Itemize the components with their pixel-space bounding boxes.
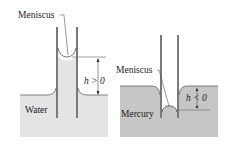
mercury-meniscus-label: Meniscus — [116, 65, 153, 75]
mercury-label: Mercury — [121, 109, 154, 119]
capillary-diagram: Meniscus h > 0 Water Meniscus h < 0 Merc… — [0, 0, 233, 150]
mercury-height-label: h < 0 — [186, 93, 207, 103]
water-panel: Meniscus h > 0 Water — [18, 10, 108, 137]
mercury-panel: Meniscus h < 0 Mercury — [116, 35, 218, 137]
water-label: Water — [25, 105, 48, 115]
water-meniscus — [58, 48, 76, 57]
water-meniscus-label: Meniscus — [18, 10, 55, 20]
water-height-label: h > 0 — [84, 76, 105, 86]
water-liquid — [20, 57, 108, 137]
